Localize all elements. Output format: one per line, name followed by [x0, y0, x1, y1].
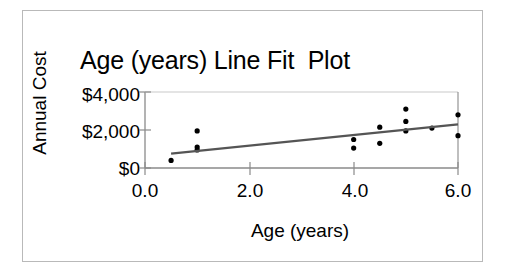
trendline-series [171, 124, 458, 153]
scatter-series [168, 107, 460, 163]
data-series-layer [168, 107, 460, 163]
axes-group [139, 92, 458, 175]
data-point [377, 125, 382, 130]
data-point [455, 112, 460, 117]
data-point [403, 107, 408, 112]
plot-area [0, 0, 509, 276]
data-point [403, 119, 408, 124]
data-point [168, 158, 173, 163]
data-point [351, 137, 356, 142]
data-point [377, 141, 382, 146]
data-point [455, 133, 460, 138]
data-point [195, 128, 200, 133]
figure: Age (years) Line Fit Plot Annual Cost Ag… [0, 0, 509, 276]
trendline [171, 124, 458, 153]
data-point [351, 145, 356, 150]
